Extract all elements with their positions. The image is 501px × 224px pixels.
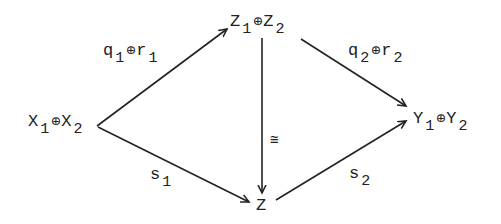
label-q2-plus-r2: q2⊕r2	[348, 42, 403, 59]
node-y1-plus-y2: Y1⊕Y2	[413, 110, 468, 127]
label-base2: r	[381, 41, 391, 60]
node-x-sub1: 1	[40, 121, 49, 138]
label-s2: s2	[349, 165, 371, 182]
label-sub: 1	[162, 174, 171, 191]
label-sub2: 2	[393, 50, 402, 67]
label-sub1: 2	[360, 50, 369, 67]
label-sub: 2	[361, 173, 370, 190]
commutative-diagram: X1⊕X2 Z1⊕Z2 Y1⊕Y2 Z q1⊕r1 q2⊕r2 ≅ s1 s2	[0, 0, 501, 224]
label-sub1: 1	[115, 50, 124, 67]
label-s1: s1	[150, 166, 172, 183]
label-base1: q	[348, 41, 358, 60]
label-base: s	[150, 165, 160, 184]
node-y-base2: Y	[446, 109, 456, 128]
node-z: Z	[256, 197, 266, 214]
label-base2: r	[136, 41, 146, 60]
node-x1-plus-x2: X1⊕X2	[28, 113, 83, 130]
direct-sum-icon: ⊕	[126, 43, 135, 60]
label-q1-plus-r1: q1⊕r1	[103, 42, 158, 59]
node-x-base2: X	[61, 112, 71, 131]
label-base: s	[349, 164, 359, 183]
direct-sum-icon: ⊕	[51, 114, 60, 131]
node-y-sub1: 1	[425, 118, 434, 135]
node-y-base1: Y	[413, 109, 423, 128]
direct-sum-icon: ⊕	[371, 43, 380, 60]
label-base1: q	[103, 41, 113, 60]
isomorphism-icon: ≅	[270, 132, 278, 148]
node-z12-sub1: 1	[242, 21, 251, 38]
node-z1-plus-z2: Z1⊕Z2	[230, 13, 285, 30]
arrow-z-to-y	[276, 121, 406, 200]
direct-sum-icon: ⊕	[253, 14, 262, 31]
node-x-sub2: 2	[73, 121, 82, 138]
node-z12-base1: Z	[230, 12, 240, 31]
node-x-base1: X	[28, 112, 38, 131]
node-y-sub2: 2	[458, 118, 467, 135]
direct-sum-icon: ⊕	[436, 111, 445, 128]
node-z12-sub2: 2	[275, 21, 284, 38]
node-z12-base2: Z	[263, 12, 273, 31]
label-sub2: 1	[148, 50, 157, 67]
node-z-base: Z	[256, 196, 266, 215]
arrow-x-to-z	[98, 127, 249, 202]
label-isomorphism: ≅	[270, 133, 278, 147]
